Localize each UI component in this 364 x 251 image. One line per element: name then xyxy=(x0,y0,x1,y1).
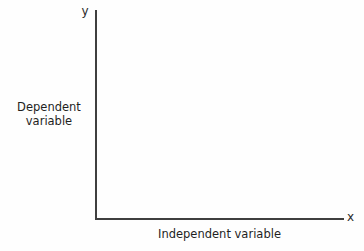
y-axis-title-line-1: Dependent xyxy=(8,100,90,114)
x-axis-line xyxy=(95,218,344,220)
y-axis-title: Dependent variable xyxy=(8,100,90,128)
y-axis-symbol: y xyxy=(78,5,92,17)
x-axis-symbol: x xyxy=(347,211,361,223)
x-axis-title: Independent variable xyxy=(95,227,344,241)
y-axis-line xyxy=(95,10,97,220)
y-axis-title-line-2: variable xyxy=(8,114,90,128)
chart-figure: y x Dependent variable Independent varia… xyxy=(0,0,364,251)
